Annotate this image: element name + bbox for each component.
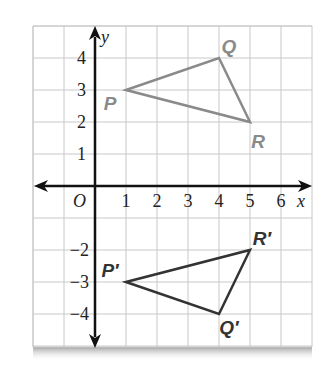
x-tick-label: 5	[246, 191, 255, 211]
vertex-label: R	[251, 131, 265, 152]
y-tick-label: 4	[77, 48, 86, 68]
x-tick-label: 1	[122, 191, 131, 211]
y-tick-label: 3	[77, 80, 86, 100]
vertex-label: P′	[101, 260, 120, 281]
y-tick-label: 1	[77, 144, 86, 164]
y-tick-label: −4	[70, 304, 89, 324]
grid-shadow	[33, 347, 312, 361]
x-tick-label: 2	[153, 191, 162, 211]
vertex-label: Q′	[219, 317, 240, 338]
y-tick-label: −2	[70, 240, 89, 260]
y-tick-label: 2	[77, 112, 86, 132]
vertex-label: Q	[222, 36, 237, 57]
y-axis-label: y	[99, 27, 109, 47]
x-axis-label: x	[296, 191, 305, 211]
vertex-label: R′	[253, 228, 273, 249]
x-tick-label: 3	[184, 191, 193, 211]
y-tick-label: −3	[70, 272, 89, 292]
x-tick-label: 4	[215, 191, 224, 211]
origin-label: O	[73, 191, 86, 211]
vertex-label: P	[104, 93, 117, 114]
x-tick-label: 6	[277, 191, 286, 211]
coordinate-plane-figure: 1234561234−2−3−4 PQRP′Q′R′ x y O	[0, 0, 330, 382]
